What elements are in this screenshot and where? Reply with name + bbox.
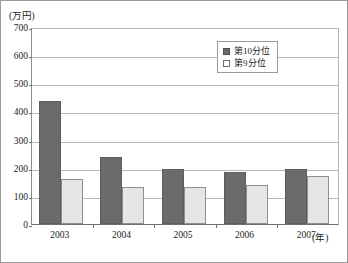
bar — [246, 185, 268, 224]
bar — [162, 169, 184, 224]
bar — [184, 187, 206, 224]
open-light-square-icon — [223, 60, 230, 67]
bar — [122, 187, 144, 224]
x-tick-label: 2004 — [101, 230, 141, 240]
legend-item: 第10分位 — [223, 45, 270, 57]
y-tick-label: 200 — [14, 165, 28, 175]
bar-group — [285, 29, 329, 224]
y-tick-label: 600 — [14, 52, 28, 62]
legend-item-label: 第10分位 — [234, 47, 270, 56]
y-tick-mark — [29, 226, 32, 227]
y-tick-label: 700 — [14, 24, 28, 34]
x-tick-label: 2005 — [163, 230, 203, 240]
bar — [39, 101, 61, 224]
y-axis-unit-label: (万円) — [9, 8, 35, 22]
plot-area: 0100200300400500600700 — [31, 28, 339, 225]
y-tick-label: 0 — [23, 221, 28, 231]
bar-series-container — [32, 29, 338, 224]
bar-group — [39, 29, 83, 224]
bar — [307, 176, 329, 224]
y-tick-label: 300 — [14, 137, 28, 147]
legend-item: 第9分位 — [223, 57, 270, 69]
x-axis-unit-label: (年) — [312, 230, 328, 244]
bar-group — [162, 29, 206, 224]
bar-group — [100, 29, 144, 224]
y-tick-label: 500 — [14, 81, 28, 91]
x-tick-mark — [277, 225, 278, 228]
y-tick-label: 100 — [14, 193, 28, 203]
x-tick-label: 2003 — [40, 230, 80, 240]
legend-item-label: 第9分位 — [234, 59, 266, 68]
x-tick-mark — [216, 225, 217, 228]
bar — [61, 179, 83, 224]
y-tick-label: 400 — [14, 109, 28, 119]
bar — [100, 157, 122, 224]
filled-dark-square-icon — [223, 48, 230, 55]
x-tick-mark — [154, 225, 155, 228]
bar — [224, 172, 246, 224]
x-tick-mark — [93, 225, 94, 228]
x-tick-label: 2006 — [225, 230, 265, 240]
chart-legend: 第10分位 第9分位 — [217, 41, 278, 73]
bar — [285, 169, 307, 224]
chart-frame: (万円) 0100200300400500600700 200320042005… — [0, 0, 348, 263]
